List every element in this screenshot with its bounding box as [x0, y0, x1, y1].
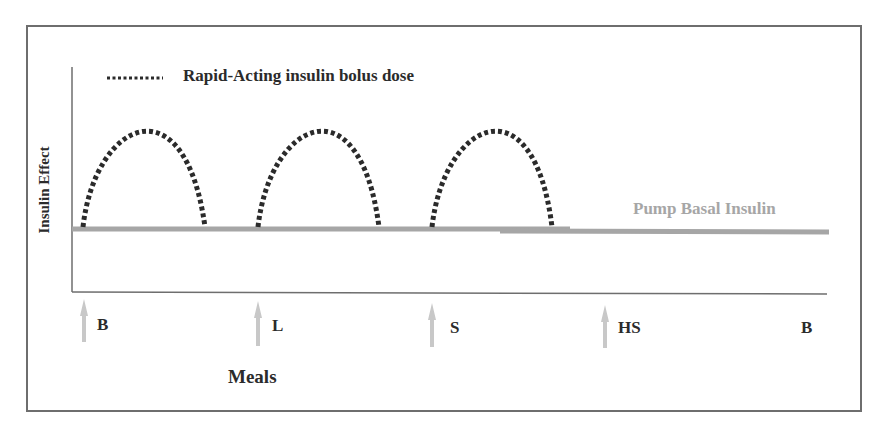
meal-arrow-icon [601, 305, 609, 348]
meal-label-bedtime: HS [618, 318, 641, 338]
x-axis-label: Meals [228, 366, 277, 388]
meal-label-lunch: L [272, 316, 283, 336]
bolus-curve-breakfast [83, 131, 205, 227]
basal-insulin-line [72, 229, 829, 232]
meal-arrow-icon [428, 303, 436, 347]
x-axis [72, 292, 827, 294]
bolus-curve-lunch [258, 131, 379, 227]
legend-label-bolus: Rapid-Acting insulin bolus dose [183, 66, 414, 86]
meal-label-supper: S [450, 318, 459, 338]
meal-label-breakfast: B [97, 315, 108, 335]
meal-label-next-breakfast: B [801, 318, 812, 338]
bolus-curve-supper [432, 131, 552, 227]
y-axis-label: Insulin Effect [36, 146, 53, 233]
meal-arrow-icon [254, 301, 262, 346]
basal-insulin-label: Pump Basal Insulin [633, 199, 776, 219]
meal-arrow-icon [80, 299, 88, 342]
chart-plot [0, 0, 884, 438]
